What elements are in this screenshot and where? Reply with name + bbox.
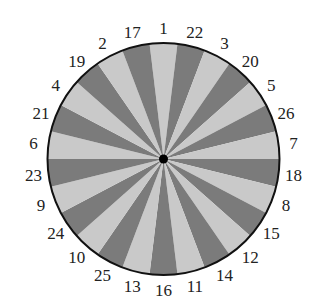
sector-label: 24: [47, 224, 65, 243]
sector-label: 20: [242, 52, 259, 71]
sector-label: 8: [282, 196, 291, 215]
sector-label: 4: [51, 76, 60, 95]
sector-label: 18: [285, 166, 302, 185]
sector-label: 1: [159, 19, 168, 38]
sector-label: 25: [94, 266, 111, 285]
sector-label: 16: [155, 281, 172, 300]
spinner-wheel: 1223205267188151214111613251024923621419…: [0, 0, 331, 307]
sector-label: 2: [98, 34, 107, 53]
sector-label: 22: [186, 23, 203, 42]
sector-label: 26: [277, 104, 294, 123]
sector-label: 13: [124, 277, 141, 296]
center-pivot: [159, 155, 168, 164]
sector-label: 11: [187, 277, 203, 296]
sector-label: 6: [29, 134, 38, 153]
sector-label: 12: [242, 248, 259, 267]
sector-label: 15: [263, 224, 280, 243]
sector-label: 5: [267, 76, 276, 95]
sector-label: 14: [216, 266, 234, 285]
sector-label: 23: [25, 166, 42, 185]
sector-label: 21: [33, 104, 50, 123]
sector-label: 17: [124, 23, 142, 42]
sector-label: 9: [37, 196, 46, 215]
sector-label: 3: [220, 34, 229, 53]
sector-label: 7: [289, 134, 298, 153]
sector-label: 10: [68, 248, 85, 267]
sector-label: 19: [68, 52, 85, 71]
